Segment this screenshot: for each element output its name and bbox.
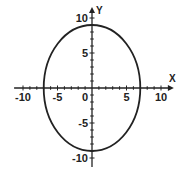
- axes: [14, 7, 174, 167]
- x-tick-label: -10: [15, 91, 31, 103]
- y-tick-label: 10: [76, 12, 88, 24]
- x-axis-label: X: [169, 73, 176, 84]
- y-tick-label: -10: [72, 152, 88, 164]
- x-tick-label: 10: [155, 91, 167, 103]
- y-tick-label: -5: [78, 117, 88, 129]
- x-tick-label: 0: [82, 91, 88, 103]
- x-tick-label: 5: [123, 91, 129, 103]
- x-axis-arrow-icon: [168, 85, 174, 91]
- y-axis-label: Y: [96, 5, 103, 16]
- y-axis-arrow-icon: [89, 7, 95, 13]
- y-tick-label: 5: [82, 47, 88, 59]
- x-tick-label: -5: [53, 91, 63, 103]
- ellipse-chart: -10-50510-10-5510 X Y: [0, 0, 177, 177]
